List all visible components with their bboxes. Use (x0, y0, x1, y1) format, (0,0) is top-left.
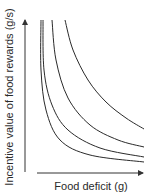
curve-4 (65, 20, 144, 129)
curve-1 (41, 20, 144, 162)
curves-group (41, 20, 144, 162)
diagram-canvas (0, 0, 146, 194)
x-axis-label: Food deficit (g) (54, 180, 127, 192)
y-axis-label: Incentive value of food rewards (g/s) (3, 8, 15, 185)
